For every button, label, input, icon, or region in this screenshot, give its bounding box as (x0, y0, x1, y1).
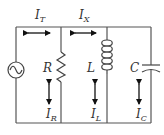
resistor-icon (57, 52, 65, 82)
wires (16, 27, 151, 123)
capacitor-label: C (130, 61, 139, 75)
current-label-x: IX (78, 8, 90, 24)
current-label-total: IT (34, 8, 46, 24)
current-label-inductor: IL (90, 107, 101, 123)
current-label-capacitor: IC (135, 107, 147, 123)
current-label-resistor: IR (45, 107, 57, 123)
inductor-label: L (86, 61, 95, 75)
resistor-label: R (42, 61, 52, 75)
inductor-icon (102, 40, 113, 74)
ac-source-icon (8, 62, 24, 78)
circuit-diagram: R L C IT IX IR IL IC (0, 0, 164, 135)
